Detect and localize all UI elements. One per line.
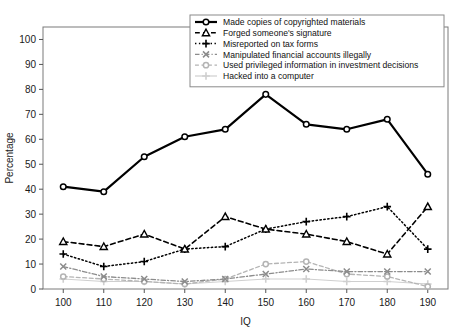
x-tick-label: 120 <box>136 297 153 308</box>
data-point-marker <box>425 284 430 289</box>
legend-label: Made copies of copyrighted materials <box>223 17 365 27</box>
x-tick-label: 150 <box>257 297 274 308</box>
data-point-marker <box>101 189 107 195</box>
data-point-marker <box>263 261 268 266</box>
x-tick-label: 190 <box>419 297 436 308</box>
y-tick-label: 50 <box>25 159 37 170</box>
x-tick-label: 110 <box>96 297 112 308</box>
y-tick-label: 30 <box>25 209 37 220</box>
line-chart: 0102030405060708090100100110120130140150… <box>0 0 456 330</box>
y-tick-label: 100 <box>19 34 36 45</box>
y-tick-label: 10 <box>25 259 37 270</box>
data-point-marker <box>60 184 66 190</box>
data-point-marker <box>61 274 66 279</box>
legend-label: Used privileged information in investmen… <box>223 60 418 70</box>
y-tick-label: 60 <box>25 134 37 145</box>
y-tick-label: 40 <box>25 184 37 195</box>
data-point-marker <box>303 122 309 128</box>
legend-entry[interactable]: Used privileged information in investmen… <box>195 60 418 70</box>
data-point-marker <box>425 171 431 177</box>
x-tick-label: 100 <box>55 297 72 308</box>
data-point-marker <box>141 154 147 160</box>
data-point-marker <box>203 63 208 68</box>
legend-label: Manipulated financial accounts illegally <box>223 50 372 60</box>
legend-label: Forged someone's signature <box>223 28 332 38</box>
data-point-marker <box>385 274 390 279</box>
legend-label: Hacked into a computer <box>223 71 314 81</box>
x-tick-label: 160 <box>298 297 315 308</box>
x-tick-label: 140 <box>217 297 234 308</box>
y-tick-label: 80 <box>25 84 37 95</box>
data-point-marker <box>263 92 269 98</box>
legend-label: Misreported on tax forms <box>223 39 318 49</box>
data-point-marker <box>222 127 228 133</box>
data-point-marker <box>182 134 188 140</box>
data-point-marker <box>304 259 309 264</box>
y-tick-label: 70 <box>25 109 37 120</box>
y-tick-label: 20 <box>25 234 37 245</box>
x-tick-label: 170 <box>338 297 355 308</box>
y-tick-label: 0 <box>30 284 36 295</box>
data-point-marker <box>384 117 390 123</box>
data-point-marker <box>344 127 350 133</box>
x-tick-label: 130 <box>176 297 193 308</box>
x-tick-label: 180 <box>379 297 396 308</box>
y-axis-title: Percentage <box>4 132 15 184</box>
x-axis-title: IQ <box>240 316 251 327</box>
y-tick-label: 90 <box>25 59 37 70</box>
data-point-marker <box>203 19 209 25</box>
chart-container: 0102030405060708090100100110120130140150… <box>0 0 456 330</box>
